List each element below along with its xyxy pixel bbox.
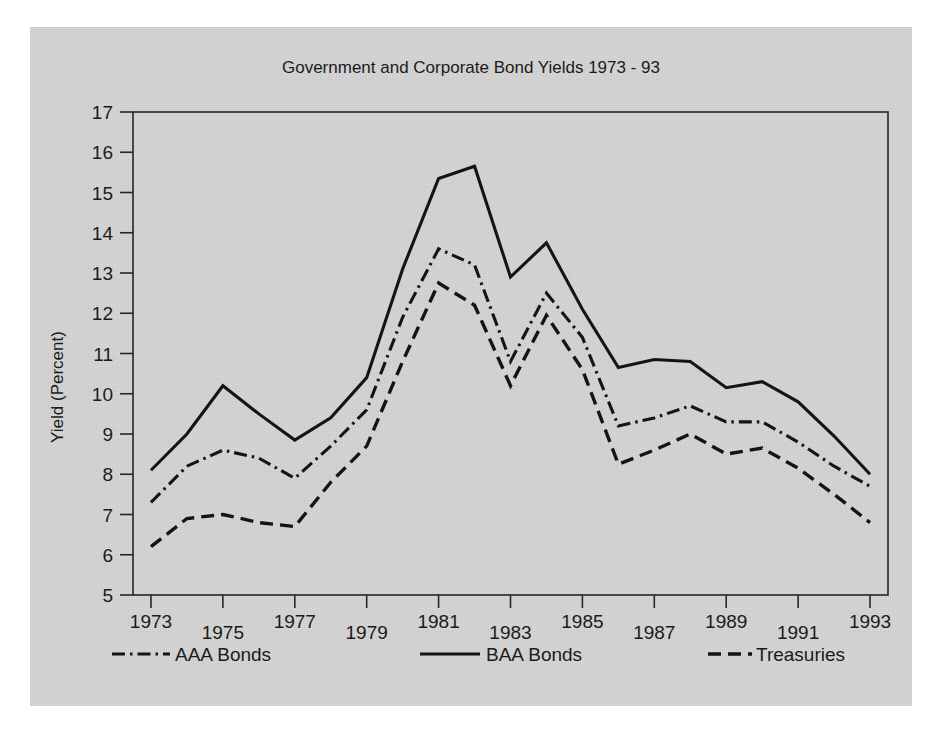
series-line-baa-bonds: [151, 166, 870, 474]
y-tick-label: 11: [93, 344, 113, 365]
x-tick-label: 1987: [633, 622, 675, 643]
y-tick-label: 16: [92, 142, 113, 163]
x-tick-label: 1977: [274, 611, 316, 632]
x-tick-label: 1981: [417, 611, 459, 632]
x-tick-label: 1983: [489, 622, 531, 643]
chart-legend: AAA Bonds BAA Bonds Treasuries: [112, 644, 845, 665]
x-tick-label: 1975: [202, 622, 244, 643]
x-tick-label: 1979: [346, 622, 388, 643]
scanned-figure-area: Government and Corporate Bond Yields 197…: [30, 27, 912, 706]
y-tick-label: 15: [92, 183, 113, 204]
legend-item-baa-bonds: BAA Bonds: [420, 644, 582, 665]
y-tick-marks: [120, 112, 133, 595]
y-tick-labels: 567891011121314151617: [92, 102, 114, 606]
plot-area-frame: [133, 112, 888, 595]
y-tick-label: 5: [102, 585, 113, 606]
chart-title: Government and Corporate Bond Yields 197…: [282, 58, 660, 77]
legend-label-baa-bonds: BAA Bonds: [486, 644, 582, 665]
y-tick-label: 6: [102, 545, 113, 566]
series-line-aaa-bonds: [151, 249, 870, 503]
y-tick-label: 17: [92, 102, 113, 123]
x-tick-label: 1985: [561, 611, 603, 632]
y-tick-label: 10: [92, 384, 113, 405]
x-tick-labels: 1973197519771979198119831985198719891991…: [130, 611, 891, 643]
legend-item-aaa-bonds: AAA Bonds: [112, 644, 271, 665]
x-tick-marks: [151, 595, 870, 608]
legend-item-treasuries: Treasuries: [708, 644, 845, 665]
y-tick-label: 8: [102, 464, 113, 485]
y-axis-title: Yield (Percent): [48, 331, 67, 443]
x-tick-label: 1989: [705, 611, 747, 632]
x-tick-label: 1973: [130, 611, 172, 632]
x-tick-label: 1993: [849, 611, 891, 632]
legend-label-aaa-bonds: AAA Bonds: [175, 644, 271, 665]
y-tick-label: 7: [102, 505, 113, 526]
y-tick-label: 12: [92, 303, 113, 324]
figure-root: Government and Corporate Bond Yields 197…: [0, 0, 942, 738]
x-tick-label: 1991: [777, 622, 819, 643]
y-tick-label: 9: [102, 424, 113, 445]
bond-yields-line-chart: Government and Corporate Bond Yields 197…: [30, 27, 912, 706]
y-tick-label: 14: [92, 223, 114, 244]
y-tick-label: 13: [92, 263, 113, 284]
legend-label-treasuries: Treasuries: [756, 644, 845, 665]
